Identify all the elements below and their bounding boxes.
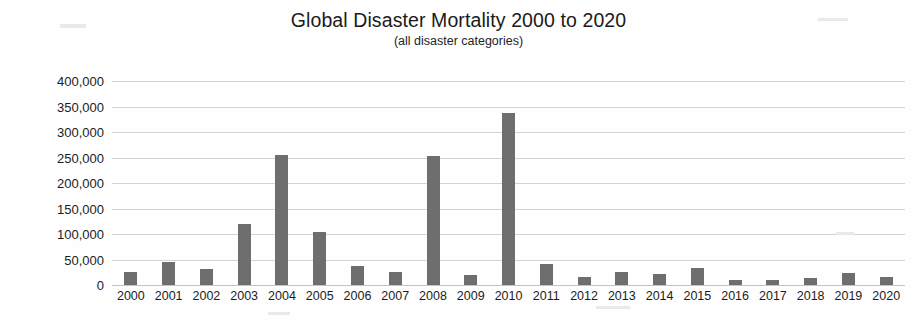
x-axis-tick-label: 2019: [830, 289, 868, 304]
x-axis-tick-label: 2000: [112, 289, 150, 304]
x-axis-tick-label: 2008: [414, 289, 452, 304]
x-axis-tick-label: 2012: [565, 289, 603, 304]
bar-2001: [162, 262, 175, 285]
y-axis-tick-label: 100,000: [57, 228, 104, 241]
x-axis-tick-label: 2007: [376, 289, 414, 304]
title-block: Global Disaster Mortality 2000 to 2020 (…: [0, 8, 917, 49]
bar-slot: [792, 81, 830, 285]
bar-slot: [301, 81, 339, 285]
x-axis-tick-label: 2005: [301, 289, 339, 304]
bar-2008: [427, 156, 440, 285]
x-axis-tick-label: 2016: [716, 289, 754, 304]
bar-slot: [188, 81, 226, 285]
y-axis-tick-label: 200,000: [57, 177, 104, 190]
x-axis-tick-slot: 2004: [263, 289, 301, 304]
x-axis-tick-label: 2017: [754, 289, 792, 304]
x-axis-tick-slot: 2011: [527, 289, 565, 304]
bar-2002: [200, 269, 213, 285]
y-axis-tick-label: 50,000: [64, 253, 104, 266]
y-axis-tick-label: 400,000: [57, 75, 104, 88]
x-axis-tick-slot: 2003: [225, 289, 263, 304]
x-axis-tick-slot: 2000: [112, 289, 150, 304]
x-axis-tick-slot: 2001: [150, 289, 188, 304]
x-axis-tick-label: 2003: [225, 289, 263, 304]
bar-slot: [376, 81, 414, 285]
bar-slot: [225, 81, 263, 285]
bar-slot: [414, 81, 452, 285]
bar-slot: [754, 81, 792, 285]
x-axis-tick-slot: 2013: [603, 289, 641, 304]
bar-2007: [389, 272, 402, 285]
bar-2003: [238, 224, 251, 285]
bar-2013: [615, 272, 628, 285]
chart-figure: Global Disaster Mortality 2000 to 2020 (…: [0, 0, 917, 331]
bar-slot: [339, 81, 377, 285]
x-axis-tick-label: 2011: [527, 289, 565, 304]
bar-2010: [502, 113, 515, 285]
bar-slot: [490, 81, 528, 285]
bar-2016: [729, 280, 742, 285]
bar-slot: [452, 81, 490, 285]
y-axis-tick-label: 350,000: [57, 100, 104, 113]
bar-slot: [112, 81, 150, 285]
chart-subtitle: (all disaster categories): [0, 33, 917, 49]
bar-slot: [678, 81, 716, 285]
x-axis-tick-slot: 2017: [754, 289, 792, 304]
x-axis-tick-slot: 2009: [452, 289, 490, 304]
y-axis-tick-label: 150,000: [57, 202, 104, 215]
x-axis-tick-slot: 2019: [830, 289, 868, 304]
x-axis-tick-label: 2004: [263, 289, 301, 304]
x-axis-tick-slot: 2002: [188, 289, 226, 304]
bar-slot: [150, 81, 188, 285]
y-axis-tick-label: 250,000: [57, 151, 104, 164]
x-axis-tick-label: 2006: [339, 289, 377, 304]
x-axis-tick-slot: 2006: [339, 289, 377, 304]
bar-slot: [716, 81, 754, 285]
scan-artifact: [596, 306, 630, 309]
bar-slot: [830, 81, 868, 285]
bar-slot: [641, 81, 679, 285]
chart-title: Global Disaster Mortality 2000 to 2020: [0, 8, 917, 32]
bar-slot: [867, 81, 905, 285]
bar-2014: [653, 274, 666, 285]
x-axis-tick-label: 2001: [150, 289, 188, 304]
bar-2020: [880, 277, 893, 285]
bar-2009: [464, 275, 477, 285]
bar-2000: [124, 272, 137, 285]
bar-2015: [691, 268, 704, 285]
y-axis-tick-label: 0: [97, 279, 104, 292]
y-axis-tick-label: 300,000: [57, 126, 104, 139]
x-axis-tick-slot: 2007: [376, 289, 414, 304]
x-axis-tick-slot: 2008: [414, 289, 452, 304]
x-axis-tick-label: 2013: [603, 289, 641, 304]
x-axis-tick-label: 2009: [452, 289, 490, 304]
x-axis-tick-slot: 2018: [792, 289, 830, 304]
plot-area: [112, 81, 905, 285]
bar-slot: [263, 81, 301, 285]
x-axis-tick-label: 2014: [641, 289, 679, 304]
x-axis-tick-slot: 2005: [301, 289, 339, 304]
x-axis-tick-slot: 2010: [490, 289, 528, 304]
x-axis-tick-labels: 2000200120022003200420052006200720082009…: [112, 289, 905, 304]
x-axis-tick-slot: 2020: [867, 289, 905, 304]
x-axis-tick-slot: 2014: [641, 289, 679, 304]
bar-2004: [275, 155, 288, 285]
bar-series: [112, 81, 905, 285]
bar-slot: [565, 81, 603, 285]
bar-2019: [842, 273, 855, 285]
x-axis-tick-slot: 2012: [565, 289, 603, 304]
bar-2005: [313, 232, 326, 285]
x-axis-tick-label: 2015: [678, 289, 716, 304]
x-axis-tick-slot: 2016: [716, 289, 754, 304]
bar-2006: [351, 266, 364, 285]
bar-slot: [527, 81, 565, 285]
x-axis-tick-label: 2010: [490, 289, 528, 304]
bar-2011: [540, 264, 553, 285]
x-axis-tick-label: 2018: [792, 289, 830, 304]
x-axis-tick-label: 2002: [188, 289, 226, 304]
x-axis-tick-slot: 2015: [678, 289, 716, 304]
gridline: [112, 285, 905, 286]
bar-2017: [766, 280, 779, 285]
y-axis-tick-labels: 400,000350,000300,000250,000200,000150,0…: [0, 81, 104, 285]
bar-2012: [578, 277, 591, 285]
